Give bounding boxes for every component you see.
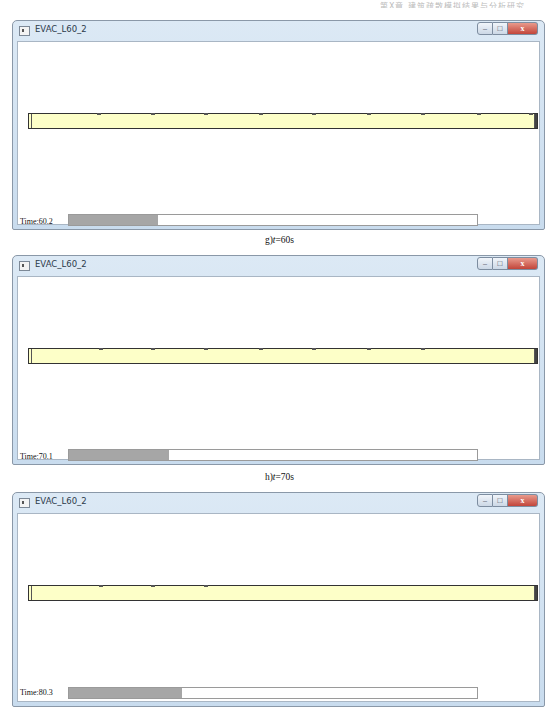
maximize-button[interactable]: □ xyxy=(493,257,508,270)
time-label: Time:70.1 xyxy=(20,452,53,461)
progress-fill xyxy=(69,450,169,460)
time-progress-bar[interactable] xyxy=(68,687,478,699)
simulation-window-2: EVAC_L60_2 – □ x Time:70.1 xyxy=(12,255,545,465)
agent-marker xyxy=(421,113,425,115)
caption-suffix: =70s xyxy=(276,472,295,482)
corridor-left-exit xyxy=(29,349,32,363)
progress-fill xyxy=(69,215,158,225)
minimize-button[interactable]: – xyxy=(477,494,493,507)
agent-marker xyxy=(99,585,103,587)
agent-marker xyxy=(99,348,103,350)
page-header-text: 第X章 建筑疏散模拟结果与分析研究 xyxy=(380,0,559,8)
maximize-button[interactable]: □ xyxy=(493,22,508,35)
title-bar[interactable]: EVAC_L60_2 – □ x xyxy=(13,256,544,276)
caption-suffix: =60s xyxy=(276,235,295,245)
agent-marker xyxy=(312,113,316,115)
figure-caption-g: g)t=60s xyxy=(0,235,559,245)
agent-marker xyxy=(97,113,101,115)
window-title: EVAC_L60_2 xyxy=(35,24,87,34)
progress-fill xyxy=(69,688,182,698)
agent-marker xyxy=(259,113,263,115)
time-progress-bar[interactable] xyxy=(68,214,478,226)
time-progress-bar[interactable] xyxy=(68,449,478,461)
simulation-canvas: Time:70.1 xyxy=(17,276,540,460)
app-icon xyxy=(19,261,30,271)
agent-marker xyxy=(204,113,208,115)
window-title: EVAC_L60_2 xyxy=(35,496,87,506)
maximize-button[interactable]: □ xyxy=(493,494,508,507)
app-icon xyxy=(19,498,30,508)
caption-prefix: g) xyxy=(265,235,273,245)
simulation-canvas: Time:80.3 xyxy=(17,513,540,702)
agent-marker xyxy=(151,585,155,587)
minimize-button[interactable]: – xyxy=(477,22,493,35)
app-icon xyxy=(19,26,30,36)
simulation-window-3: EVAC_L60_2 – □ x Time:80.3 xyxy=(12,492,545,707)
corridor-right-exit xyxy=(534,349,537,363)
agent-marker xyxy=(312,348,316,350)
time-label: Time:60.2 xyxy=(20,217,53,226)
agent-marker xyxy=(421,348,425,350)
agent-marker xyxy=(529,113,533,115)
close-button[interactable]: x xyxy=(508,22,538,35)
caption-prefix: h) xyxy=(265,472,273,482)
minimize-button[interactable]: – xyxy=(477,257,493,270)
window-title: EVAC_L60_2 xyxy=(35,259,87,269)
simulation-window-1: EVAC_L60_2 – □ x Time:60.2 xyxy=(12,20,545,230)
agent-marker xyxy=(204,348,208,350)
agent-marker xyxy=(367,113,371,115)
corridor xyxy=(28,113,538,129)
close-button[interactable]: x xyxy=(508,494,538,507)
agent-marker xyxy=(367,348,371,350)
corridor-right-exit xyxy=(534,114,537,128)
agent-marker xyxy=(151,348,155,350)
agent-marker xyxy=(151,113,155,115)
corridor xyxy=(28,585,538,601)
simulation-canvas: Time:60.2 xyxy=(17,41,540,225)
close-button[interactable]: x xyxy=(508,257,538,270)
agent-marker xyxy=(204,585,208,587)
title-bar[interactable]: EVAC_L60_2 – □ x xyxy=(13,21,544,41)
agent-marker xyxy=(259,348,263,350)
title-bar[interactable]: EVAC_L60_2 – □ x xyxy=(13,493,544,513)
corridor xyxy=(28,348,538,364)
corridor-left-exit xyxy=(29,586,32,600)
agent-marker xyxy=(477,113,481,115)
corridor-right-exit xyxy=(534,586,537,600)
figure-caption-h: h)t=70s xyxy=(0,472,559,482)
time-label: Time:80.3 xyxy=(20,688,53,697)
corridor-left-exit xyxy=(29,114,32,128)
